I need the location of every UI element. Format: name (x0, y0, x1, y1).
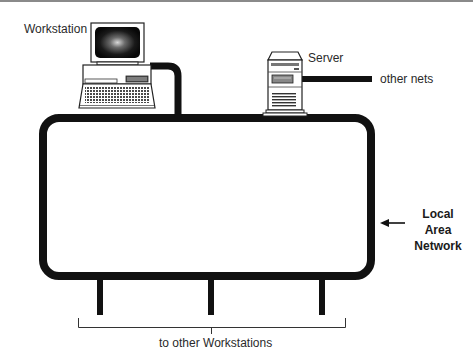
lan-loop (43, 118, 371, 276)
drop-1 (97, 276, 103, 315)
lan-label-line-1: Local (410, 206, 466, 222)
drop-2 (208, 276, 214, 315)
lan-label-line-3: Network (410, 238, 466, 254)
other-workstations-label: to other Workstations (159, 336, 272, 350)
other-nets-cable (300, 76, 372, 82)
drop-3 (319, 276, 325, 315)
other-nets-label: other nets (380, 72, 433, 86)
server-tower-icon (263, 52, 307, 116)
workstation-cable (150, 66, 178, 118)
lan-label-line-2: Area (410, 222, 466, 238)
network-diagram (0, 0, 473, 364)
workstation-drops (97, 276, 325, 315)
server-label: Server (308, 51, 343, 65)
lan-arrow-icon (380, 219, 405, 227)
workstation-label: Workstation (24, 22, 87, 36)
workstation-computer-icon (79, 23, 155, 108)
workstations-bracket (79, 318, 346, 334)
lan-label: Local Area Network (410, 206, 466, 254)
